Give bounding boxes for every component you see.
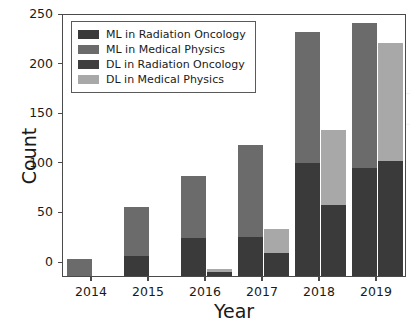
legend-label: ML in Medical Physics [106,44,225,55]
bar-segment-ml-in-radiation-oncology [352,168,377,276]
bar-segment-dl-in-radiation-oncology [264,253,289,276]
legend-swatch-ml-medical-physics [78,45,99,54]
x-tick-mark [204,277,205,281]
legend-item-dl-medical-physics: DL in Medical Physics [78,72,246,87]
x-tick-mark [318,277,319,281]
y-tick-label: 200 [29,56,53,71]
legend-label: DL in Radiation Oncology [106,59,245,70]
legend-item-ml-radiation-oncology: ML in Radiation Oncology [78,27,246,42]
legend-label: DL in Medical Physics [106,74,224,85]
x-tick-label: 2014 [67,284,115,299]
bar-segment-dl-in-medical-physics [207,269,232,272]
bar-ml-2015 [124,207,149,276]
bar-dl-2016 [207,269,232,276]
bar-segment-ml-in-radiation-oncology [124,256,149,276]
y-tick-label: 0 [45,254,53,269]
bar-ml-2016 [181,176,206,276]
x-tick-label: 2018 [295,284,343,299]
bar-segment-dl-in-medical-physics [264,229,289,253]
bar-segment-dl-in-radiation-oncology [207,272,232,276]
bar-segment-dl-in-medical-physics [321,130,346,204]
bar-segment-dl-in-radiation-oncology [378,161,403,276]
x-tick-label: 2017 [238,284,286,299]
y-tick-label: 150 [29,105,53,120]
x-tick-mark [147,277,148,281]
y-tick-label: 250 [29,6,53,21]
plot-area: ML in Radiation Oncology ML in Medical P… [62,14,406,277]
bar-dl-2017 [264,229,289,276]
x-tick-label: 2019 [352,284,400,299]
chart-legend: ML in Radiation Oncology ML in Medical P… [71,21,256,93]
bar-ml-2018 [295,32,320,276]
legend-swatch-dl-medical-physics [78,75,99,84]
y-tick-label: 50 [37,204,53,219]
bar-segment-ml-in-medical-physics [295,32,320,163]
bar-segment-ml-in-medical-physics [67,259,92,276]
bar-dl-2019 [378,43,403,276]
bar-segment-ml-in-radiation-oncology [238,237,263,276]
bar-segment-dl-in-medical-physics [378,43,403,161]
x-tick-mark [90,277,91,281]
bar-segment-ml-in-medical-physics [238,145,263,237]
x-axis-label: Year [62,300,406,322]
bar-segment-ml-in-medical-physics [181,176,206,239]
bar-dl-2018 [321,130,346,276]
chart-figure: Count Year 250 200 150 100 50 0 2014 201… [0,0,418,328]
x-tick-label: 2015 [124,284,172,299]
bar-segment-ml-in-radiation-oncology [295,163,320,276]
legend-item-ml-medical-physics: ML in Medical Physics [78,42,246,57]
bar-segment-dl-in-radiation-oncology [321,205,346,276]
x-tick-mark [375,277,376,281]
legend-label: ML in Radiation Oncology [106,29,246,40]
x-tick-label: 2016 [181,284,229,299]
bar-segment-ml-in-medical-physics [124,207,149,257]
legend-swatch-dl-radiation-oncology [78,60,99,69]
legend-swatch-ml-radiation-oncology [78,30,99,39]
bar-ml-2017 [238,145,263,276]
bar-segment-ml-in-medical-physics [352,23,377,168]
bar-ml-2019 [352,23,377,276]
legend-item-dl-radiation-oncology: DL in Radiation Oncology [78,57,246,72]
y-tick-label: 100 [29,155,53,170]
bar-ml-2014 [67,259,92,276]
bar-segment-ml-in-radiation-oncology [181,238,206,276]
x-tick-mark [261,277,262,281]
